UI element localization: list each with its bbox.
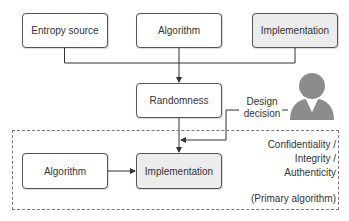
algorithm-bottom-box: Algorithm [22, 153, 108, 189]
entropy-source-label: Entropy source [31, 25, 98, 36]
implementation-top-label: Implementation [261, 25, 329, 36]
algorithm-top-label: Algorithm [158, 25, 200, 36]
annotation-primary-algorithm: (Primary algorithm) [251, 192, 336, 206]
annotation-authenticity: Authenticity [251, 166, 336, 180]
annotation-confidentiality: Confidentiality / [251, 138, 336, 152]
design-decision-label: Design decision [242, 96, 282, 120]
implementation-top-box: Implementation [252, 13, 338, 48]
algorithm-top-box: Algorithm [136, 13, 222, 48]
randomness-label: Randomness [150, 95, 209, 106]
person-icon [288, 72, 338, 122]
implementation-bottom-label: Implementation [145, 166, 213, 177]
design-decision-line2: decision [242, 108, 282, 120]
primary-annotation: Confidentiality / Integrity / Authentici… [251, 138, 336, 206]
algorithm-bottom-label: Algorithm [44, 166, 86, 177]
design-decision-line1: Design [242, 96, 282, 108]
implementation-bottom-box: Implementation [136, 153, 222, 189]
entropy-source-box: Entropy source [22, 13, 108, 48]
annotation-integrity: Integrity / [251, 152, 336, 166]
randomness-box: Randomness [136, 83, 222, 118]
